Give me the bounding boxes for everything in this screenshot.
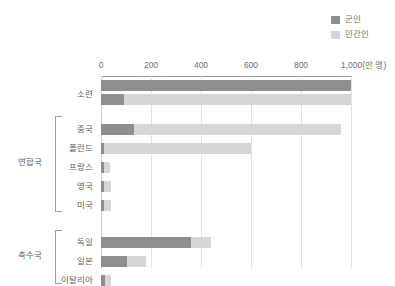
bracket-allies-label: 연합국 [18, 157, 42, 168]
x-tick-label-400: 400 [194, 60, 208, 70]
bar-china-civilian-segment [134, 124, 342, 135]
cat-label-uk: 영국 [77, 181, 93, 192]
bar-germany-civilian-segment [191, 237, 211, 248]
x-tick-label-600: 600 [244, 60, 258, 70]
cat-label-poland: 폴란드 [69, 143, 93, 154]
bar-usa-civilian-segment [104, 200, 111, 211]
x-tick-label-1000: 1,000(만 명) [341, 60, 386, 70]
cat-label-japan: 일본 [77, 256, 93, 267]
cat-label-usa: 미국 [77, 200, 93, 211]
legend-label-military: 군인 [345, 14, 361, 25]
legend-swatch-civilian-icon [331, 31, 340, 39]
bracket-axis-label: 축수국 [18, 250, 42, 261]
x-tick-label-0: 0 [99, 60, 104, 70]
x-tick-label-800: 800 [294, 60, 308, 70]
bar-uk-civilian-segment [104, 181, 112, 192]
bracket-axis [55, 230, 62, 284]
legend-label-civilian: 민간인 [345, 29, 369, 40]
bar-japan-military-segment [101, 256, 127, 267]
legend-swatch-military-icon [331, 16, 340, 24]
cat-label-china: 중국 [77, 124, 93, 135]
bar-china-military-segment [101, 124, 134, 135]
cat-label-france: 프랑스 [69, 162, 93, 173]
x-tick-label-200: 200 [144, 60, 158, 70]
bar-france-civilian-segment [104, 162, 110, 173]
bar-soviet-civilian-military-segment [101, 94, 124, 105]
chart-legend: 군인 민간인 [331, 14, 369, 40]
gridline-1000 [351, 76, 352, 268]
bar-soviet-military-military-segment [101, 80, 351, 91]
bar-soviet-civilian-civilian-segment [124, 94, 352, 105]
cat-label-italy: 이탈리아 [61, 275, 93, 286]
legend-item-civilian: 민간인 [331, 29, 369, 40]
bracket-allies [55, 116, 62, 212]
category-axis: 소련중국폴란드프랑스영국미국독일일본이탈리아 [0, 0, 96, 277]
bar-germany-military-segment [101, 237, 191, 248]
bar-japan-civilian-segment [127, 256, 146, 267]
cat-label-soviet: 소련 [77, 89, 93, 100]
legend-item-military: 군인 [331, 14, 361, 25]
bar-italy-civilian-segment [105, 275, 112, 286]
cat-label-germany: 독일 [77, 237, 93, 248]
plot-area [101, 76, 351, 268]
bar-poland-civilian-segment [104, 143, 251, 154]
